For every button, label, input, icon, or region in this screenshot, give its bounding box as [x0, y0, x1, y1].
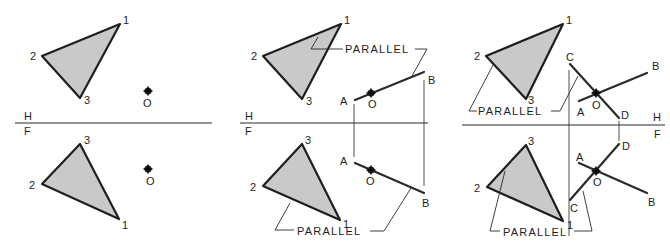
vertex-label-1: 1 [344, 14, 350, 26]
parallel-note: PARALLEL [503, 226, 567, 238]
line-ab-top [355, 72, 424, 100]
line-label-b: B [648, 196, 655, 208]
plane-label-f: F [245, 125, 252, 137]
line-ab-top [579, 73, 647, 101]
panel-step-2-line-cd: 1 2 3 PARALLEL C D A B O H F 3 2 1 [462, 14, 665, 238]
vertex-label-1: 1 [567, 219, 573, 231]
top-view-triangle [486, 24, 563, 99]
point-o-marker-icon [144, 87, 153, 96]
vertex-label-2: 2 [29, 179, 35, 191]
front-view-triangle [263, 144, 340, 220]
line-label-a: A [577, 106, 585, 118]
point-o-marker-icon [367, 166, 376, 175]
line-label-c: C [570, 202, 578, 214]
point-o-label: O [593, 176, 602, 188]
parallel-leader-right [370, 188, 411, 231]
vertex-label-2: 2 [250, 181, 256, 193]
top-view-triangle [42, 24, 120, 98]
point-o-label: O [592, 99, 601, 111]
parallel-note: PARALLEL [345, 43, 409, 55]
line-label-b: B [652, 60, 659, 72]
line-label-b: B [422, 197, 429, 209]
plane-label-f: F [654, 128, 661, 140]
vertex-label-2: 2 [251, 50, 257, 62]
vertex-label-1: 1 [566, 14, 572, 26]
point-o-label: O [143, 97, 152, 109]
vertex-label-3: 3 [84, 134, 90, 146]
panel-step-1-line-ab: 1 2 3 PARALLEL A B O H F 3 2 1 A B [240, 14, 435, 237]
front-view-triangle [42, 144, 119, 219]
point-o-label: O [146, 175, 155, 187]
vertex-label-1: 1 [122, 219, 128, 231]
vertex-label-3: 3 [305, 134, 311, 146]
line-label-d: D [621, 109, 629, 121]
point-o-marker-icon [367, 89, 376, 98]
orthographic-projection-diagram: 1 2 3 O H F 3 2 1 O 1 2 3 [0, 0, 670, 249]
front-view-triangle [487, 145, 563, 221]
line-label-a: A [576, 151, 584, 163]
plane-label-h: H [653, 111, 661, 123]
point-o-label: O [366, 175, 375, 187]
point-o-label: O [368, 98, 377, 110]
line-label-a: A [340, 95, 348, 107]
plane-label-h: H [245, 110, 253, 122]
vertex-label-1: 1 [123, 14, 129, 26]
parallel-leader-right [551, 76, 578, 111]
line-label-a: A [340, 155, 348, 167]
top-view-triangle [263, 24, 341, 99]
panel-given: 1 2 3 O H F 3 2 1 O [15, 14, 212, 231]
vertex-label-3: 3 [84, 94, 90, 106]
plane-label-h: H [24, 110, 32, 122]
parallel-note: PARALLEL [297, 225, 361, 237]
parallel-leader-left [275, 203, 294, 230]
line-label-b: B [428, 74, 435, 86]
plane-label-f: F [24, 125, 31, 137]
parallel-note: PARALLEL [478, 105, 542, 117]
line-label-d: D [622, 140, 630, 152]
vertex-label-3: 3 [306, 95, 312, 107]
vertex-label-2: 2 [30, 50, 36, 62]
line-label-c: C [566, 51, 574, 63]
vertex-label-2: 2 [474, 182, 480, 194]
point-o-marker-icon [144, 165, 153, 174]
vertex-label-3: 3 [528, 135, 534, 147]
vertex-label-2: 2 [474, 50, 480, 62]
